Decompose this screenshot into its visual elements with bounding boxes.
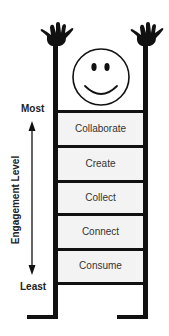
axis-bottom-label: Least — [20, 282, 46, 292]
axis-top-label: Most — [21, 104, 44, 114]
axis-title: Engagement Level — [11, 156, 21, 244]
rung-label-create: Create — [58, 159, 143, 169]
right-hand-icon — [131, 22, 164, 46]
rung-label-consume: Consume — [58, 261, 143, 271]
rung-label-collect: Collect — [58, 193, 143, 203]
engagement-axis-arrow — [29, 121, 36, 275]
engagement-ladder-diagram: Most Least Engagement Level Collaborate … — [0, 0, 169, 336]
rung-label-connect: Connect — [58, 227, 143, 237]
ladder-feet — [27, 315, 148, 319]
rung-label-collaborate: Collaborate — [58, 124, 143, 134]
left-hand-icon — [41, 22, 74, 46]
smiley-face-icon — [73, 49, 129, 105]
arrow-up-icon — [29, 121, 36, 131]
arrow-down-icon — [29, 265, 36, 275]
